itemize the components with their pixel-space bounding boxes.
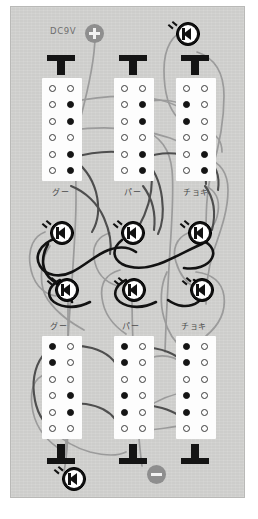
hole[interactable] xyxy=(201,376,208,383)
hole[interactable] xyxy=(139,425,146,432)
hole[interactable] xyxy=(183,118,190,125)
hole[interactable] xyxy=(201,118,208,125)
hole[interactable] xyxy=(201,392,208,399)
hole[interactable] xyxy=(183,425,190,432)
breadboard-strip-top-2[interactable] xyxy=(114,78,154,181)
hole[interactable] xyxy=(201,167,208,174)
hole[interactable] xyxy=(121,101,128,108)
hole[interactable] xyxy=(139,167,146,174)
breadboard-strip-bottom-3[interactable] xyxy=(176,336,216,439)
led-diode-icon[interactable] xyxy=(55,278,79,302)
hole[interactable] xyxy=(67,151,74,158)
hole[interactable] xyxy=(139,376,146,383)
hole[interactable] xyxy=(201,85,208,92)
hole[interactable] xyxy=(67,167,74,174)
hole[interactable] xyxy=(183,359,190,366)
hole[interactable] xyxy=(49,167,56,174)
led-diode-icon[interactable] xyxy=(50,221,74,245)
hole[interactable] xyxy=(121,151,128,158)
hole[interactable] xyxy=(67,134,74,141)
hole[interactable] xyxy=(139,118,146,125)
breadboard-strip-top-1[interactable] xyxy=(42,78,82,181)
switch-t-icon-top-3[interactable] xyxy=(181,55,209,75)
hole[interactable] xyxy=(49,343,56,350)
hole[interactable] xyxy=(183,343,190,350)
hole[interactable] xyxy=(121,134,128,141)
hole[interactable] xyxy=(139,409,146,416)
switch-t-icon-top-2[interactable] xyxy=(119,55,147,75)
hole[interactable] xyxy=(121,425,128,432)
hole[interactable] xyxy=(49,359,56,366)
hole[interactable] xyxy=(121,409,128,416)
hole[interactable] xyxy=(121,392,128,399)
hole[interactable] xyxy=(67,101,74,108)
hole[interactable] xyxy=(67,376,74,383)
led-diode-icon[interactable] xyxy=(121,221,145,245)
hole[interactable] xyxy=(201,409,208,416)
hole[interactable] xyxy=(121,359,128,366)
switch-bar xyxy=(47,458,75,464)
hole[interactable] xyxy=(121,167,128,174)
minus-terminal-icon[interactable] xyxy=(147,465,166,484)
switch-t-icon-top-1[interactable] xyxy=(47,55,75,75)
hole[interactable] xyxy=(201,343,208,350)
led-diode-icon[interactable] xyxy=(190,278,214,302)
hole[interactable] xyxy=(49,85,56,92)
hole[interactable] xyxy=(67,85,74,92)
hole[interactable] xyxy=(49,425,56,432)
hole[interactable] xyxy=(121,376,128,383)
hole[interactable] xyxy=(201,425,208,432)
hole[interactable] xyxy=(67,425,74,432)
plus-terminal-icon[interactable] xyxy=(85,24,104,43)
hole[interactable] xyxy=(67,392,74,399)
hole[interactable] xyxy=(139,359,146,366)
hole[interactable] xyxy=(67,409,74,416)
hole[interactable] xyxy=(139,134,146,141)
hole[interactable] xyxy=(67,359,74,366)
led-diode-icon[interactable] xyxy=(122,278,146,302)
hole[interactable] xyxy=(183,85,190,92)
hole[interactable] xyxy=(121,343,128,350)
hole[interactable] xyxy=(121,118,128,125)
switch-inverted-t-icon-2[interactable] xyxy=(119,444,147,464)
hole[interactable] xyxy=(201,101,208,108)
switch-inverted-t-icon-1[interactable] xyxy=(47,444,75,464)
hole[interactable] xyxy=(49,101,56,108)
hole[interactable] xyxy=(183,134,190,141)
hole[interactable] xyxy=(139,85,146,92)
hole[interactable] xyxy=(183,392,190,399)
breadboard-strip-bottom-2[interactable] xyxy=(114,336,154,439)
switch-stem xyxy=(191,60,199,75)
hole[interactable] xyxy=(183,409,190,416)
hole[interactable] xyxy=(183,376,190,383)
switch-inverted-t-icon-3[interactable] xyxy=(181,444,209,464)
hole[interactable] xyxy=(121,85,128,92)
breadboard-strip-top-3[interactable] xyxy=(176,78,216,181)
hole[interactable] xyxy=(67,118,74,125)
hole[interactable] xyxy=(183,151,190,158)
led-diode-icon[interactable] xyxy=(176,22,200,46)
hole[interactable] xyxy=(139,151,146,158)
hole[interactable] xyxy=(201,151,208,158)
hole[interactable] xyxy=(201,134,208,141)
hole[interactable] xyxy=(49,151,56,158)
hole[interactable] xyxy=(183,101,190,108)
hole[interactable] xyxy=(49,118,56,125)
led-diode-icon[interactable] xyxy=(188,221,212,245)
breadboard-strip-bottom-1[interactable] xyxy=(42,336,82,439)
hole[interactable] xyxy=(139,392,146,399)
led-cathode-bar xyxy=(61,284,64,296)
hole[interactable] xyxy=(49,392,56,399)
led-cathode-bar xyxy=(194,227,197,239)
hole[interactable] xyxy=(139,101,146,108)
hole[interactable] xyxy=(183,167,190,174)
hole[interactable] xyxy=(67,343,74,350)
led-cathode-bar xyxy=(56,227,59,239)
hole[interactable] xyxy=(139,343,146,350)
hole[interactable] xyxy=(49,376,56,383)
hole[interactable] xyxy=(49,409,56,416)
led-diode-icon[interactable] xyxy=(62,467,86,491)
hole[interactable] xyxy=(49,134,56,141)
minus-h xyxy=(151,473,162,476)
hole[interactable] xyxy=(201,359,208,366)
